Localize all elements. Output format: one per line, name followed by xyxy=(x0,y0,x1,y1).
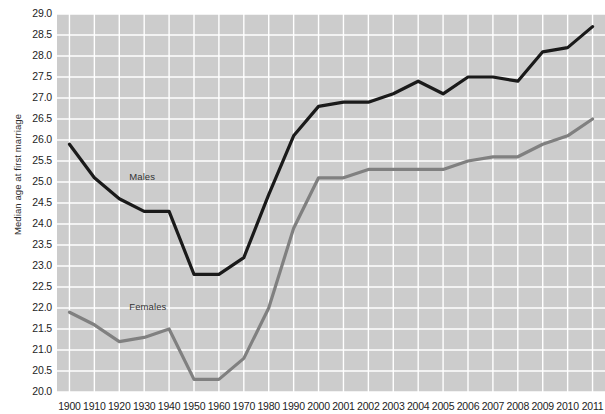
x-tick-label: 2001 xyxy=(332,400,355,412)
x-tick-label: 1920 xyxy=(108,400,131,412)
x-tick-label: 2004 xyxy=(407,400,430,412)
y-axis-title: Median age at first marriage xyxy=(12,95,23,255)
x-axis-ticks: 1900191019201930194019501960197019801990… xyxy=(0,0,605,414)
x-tick-label: 1970 xyxy=(233,400,256,412)
x-tick-label: 2000 xyxy=(307,400,330,412)
x-tick-label: 2005 xyxy=(432,400,455,412)
x-tick-label: 2003 xyxy=(382,400,405,412)
x-tick-label: 1900 xyxy=(58,400,81,412)
x-tick-label: 1980 xyxy=(257,400,280,412)
x-tick-label: 2006 xyxy=(457,400,480,412)
x-tick-label: 2010 xyxy=(556,400,579,412)
x-tick-label: 2009 xyxy=(531,400,554,412)
x-tick-label: 2011 xyxy=(582,400,604,412)
x-tick-label: 1960 xyxy=(208,400,231,412)
series-label-males: Males xyxy=(129,171,155,182)
x-tick-label: 1910 xyxy=(83,400,106,412)
x-tick-label: 1930 xyxy=(133,400,156,412)
chart-container: 20.020.521.021.522.022.523.023.524.024.5… xyxy=(0,0,605,414)
x-tick-label: 2002 xyxy=(357,400,380,412)
x-tick-label: 2008 xyxy=(507,400,530,412)
x-tick-label: 2007 xyxy=(482,400,505,412)
series-label-females: Females xyxy=(129,301,166,312)
x-tick-label: 1990 xyxy=(282,400,305,412)
x-tick-label: 1940 xyxy=(158,400,181,412)
x-tick-label: 1950 xyxy=(183,400,206,412)
